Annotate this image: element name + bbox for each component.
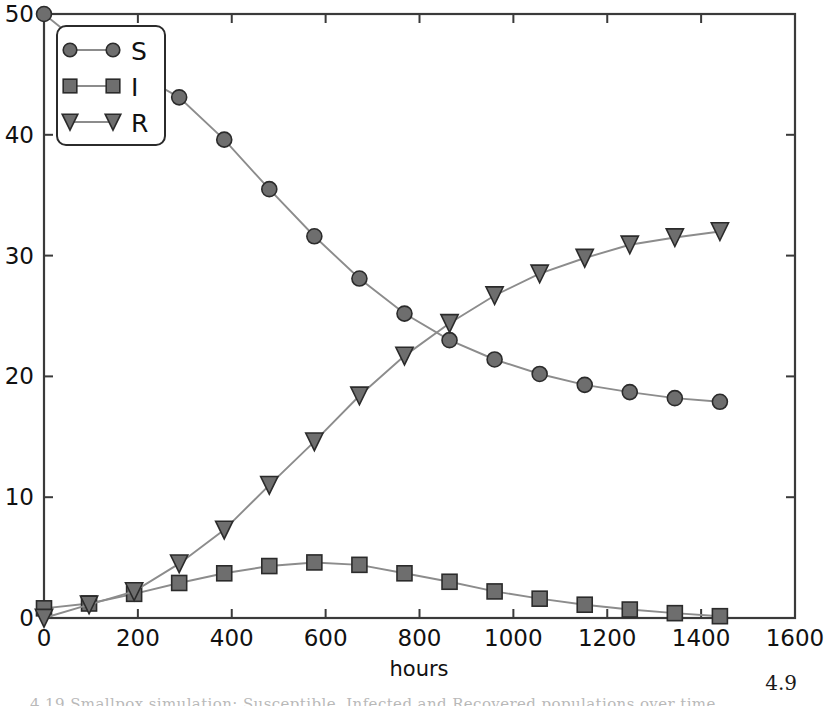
cut-off-caption: 4.19 Smallpox simulation: Susceptible, I… [30,697,810,706]
data-point-marker [172,90,187,105]
data-point-marker [622,385,637,400]
data-point-marker [172,575,187,590]
data-point-marker [712,609,727,624]
data-point-marker [307,555,322,570]
data-point-marker [307,229,322,244]
x-tick-label: 1600 [766,625,825,651]
data-point-marker [667,391,682,406]
legend-marker-i [63,79,77,93]
x-tick-label: 400 [210,625,254,651]
x-tick-label: 1000 [484,625,543,651]
data-point-marker [712,394,727,409]
legend-label-s: S [131,37,147,66]
data-point-marker [397,306,412,321]
legend-marker-s [106,43,120,57]
data-point-marker [532,591,547,606]
y-tick-label: 0 [19,605,34,631]
legend-marker-i [106,79,120,93]
data-point-marker [37,7,52,22]
data-point-marker [397,566,412,581]
x-tick-label: 800 [398,625,442,651]
chart-legend: SIR [57,26,165,145]
figure-canvas: 02004006008001000120014001600 0102030405… [0,0,835,706]
data-point-marker [577,377,592,392]
x-tick-label: 600 [304,625,348,651]
data-point-marker [352,557,367,572]
data-point-marker [667,606,682,621]
x-axis-tick-labels: 02004006008001000120014001600 [37,625,825,651]
y-tick-label: 40 [5,122,34,148]
x-tick-label: 1400 [672,625,731,651]
x-tick-label: 0 [37,625,52,651]
legend-marker-s [63,43,77,57]
data-point-marker [487,352,502,367]
legend-label-i: I [131,73,138,102]
corner-note: 4.9 [765,671,797,695]
y-tick-label: 50 [5,1,34,27]
data-point-marker [442,333,457,348]
sir-line-chart: 02004006008001000120014001600 0102030405… [0,0,835,706]
x-tick-label: 1200 [578,625,637,651]
data-point-marker [532,366,547,381]
x-tick-label: 200 [116,625,160,651]
y-tick-label: 30 [5,243,34,269]
data-point-marker [352,271,367,286]
data-point-marker [577,597,592,612]
data-point-marker [217,132,232,147]
data-point-marker [487,584,502,599]
legend-label-r: R [131,109,148,138]
data-point-marker [622,602,637,617]
data-point-marker [217,566,232,581]
y-tick-label: 20 [5,363,34,389]
x-axis-title: hours [389,657,448,681]
y-tick-label: 10 [5,484,34,510]
data-point-marker [262,182,277,197]
data-point-marker [442,574,457,589]
data-point-marker [262,559,277,574]
